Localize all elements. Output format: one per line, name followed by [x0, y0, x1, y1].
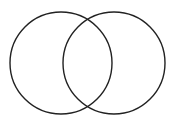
right-set-circle: [63, 12, 165, 114]
left-set-circle: [10, 12, 112, 114]
venn-diagram: [0, 0, 172, 124]
